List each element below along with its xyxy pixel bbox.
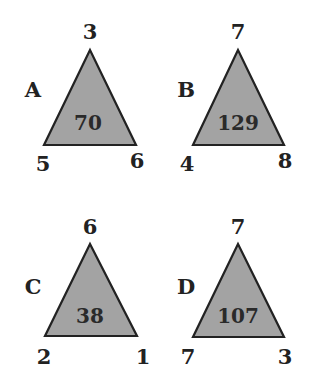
triangle-d: D 7 7 3 107 (177, 214, 292, 369)
triangle-b-bottom-left-number: 4 (180, 151, 195, 176)
triangle-c-label: C (25, 274, 42, 299)
triangle-c-center-number: 38 (76, 304, 104, 328)
triangle-b-center-number: 129 (217, 111, 259, 135)
triangle-d-center-number: 107 (217, 304, 259, 328)
triangle-a-bottom-right-number: 6 (130, 148, 145, 173)
triangle-a-center-number: 70 (74, 111, 102, 135)
triangle-a-top-number: 3 (83, 19, 98, 44)
triangle-c-bottom-right-number: 1 (136, 344, 151, 369)
triangle-c-top-number: 6 (83, 214, 98, 239)
triangle-b-top-number: 7 (231, 19, 246, 44)
triangle-d-bottom-left-number: 7 (181, 344, 196, 369)
triangle-b-label: B (177, 77, 195, 102)
triangle-d-bottom-right-number: 3 (278, 344, 293, 369)
triangle-b-bottom-right-number: 8 (278, 148, 293, 173)
triangle-c: C 6 2 1 38 (25, 214, 151, 369)
triangle-a-bottom-left-number: 5 (36, 151, 51, 176)
triangle-d-top-number: 7 (231, 214, 246, 239)
triangle-c-bottom-left-number: 2 (37, 344, 52, 369)
triangle-d-label: D (177, 274, 195, 299)
triangle-puzzle-diagram: A 3 5 6 70 B 7 4 8 129 C 6 2 1 38 D 7 7 … (0, 0, 311, 376)
triangle-a-label: A (24, 77, 42, 102)
triangle-a: A 3 5 6 70 (24, 19, 144, 176)
triangle-b: B 7 4 8 129 (177, 19, 292, 176)
